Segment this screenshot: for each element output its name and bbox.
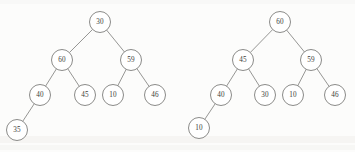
tree-node: 45 bbox=[233, 50, 254, 71]
node-label: 59 bbox=[127, 56, 135, 64]
tree-edge bbox=[249, 69, 260, 86]
tree-node: 35 bbox=[7, 120, 28, 141]
node-label: 30 bbox=[261, 91, 269, 99]
tree-node: 40 bbox=[30, 85, 51, 106]
tree-node: 60 bbox=[270, 12, 291, 33]
node-label: 10 bbox=[195, 124, 203, 132]
node-label: 45 bbox=[239, 56, 247, 64]
tree-node: 30 bbox=[255, 85, 276, 106]
node-label: 45 bbox=[81, 91, 89, 99]
node-label: 40 bbox=[36, 91, 44, 99]
node-label: 35 bbox=[13, 126, 21, 134]
tree-node: 10 bbox=[283, 85, 304, 106]
node-label: 30 bbox=[96, 18, 104, 26]
tree-edge bbox=[107, 30, 125, 52]
tree-edge bbox=[205, 104, 215, 120]
node-label: 46 bbox=[331, 91, 339, 99]
tree-node: 59 bbox=[301, 50, 322, 71]
tree-edge bbox=[137, 69, 149, 87]
tree-canvas: 30605940451046356045594030104610 bbox=[0, 0, 355, 152]
tree-edge bbox=[118, 69, 126, 85]
tree-edges bbox=[23, 29, 329, 121]
tree-node: 45 bbox=[75, 85, 96, 106]
tree-edge bbox=[69, 29, 92, 52]
tree-node: 30 bbox=[90, 12, 111, 33]
node-label: 59 bbox=[307, 56, 315, 64]
tree-nodes: 30605940451046356045594030104610 bbox=[7, 12, 346, 141]
tree-node: 59 bbox=[121, 50, 142, 71]
tree-edge bbox=[46, 69, 57, 86]
node-label: 60 bbox=[58, 56, 66, 64]
tree-node: 10 bbox=[103, 85, 124, 106]
tree-edge bbox=[227, 69, 238, 86]
tree-node: 60 bbox=[52, 50, 73, 71]
tree-edge bbox=[250, 30, 272, 53]
binary-tree-figure: 30605940451046356045594030104610 bbox=[0, 0, 355, 152]
tree-node: 46 bbox=[145, 85, 166, 106]
tree-node: 10 bbox=[189, 118, 210, 139]
tree-edge bbox=[23, 104, 34, 121]
node-label: 40 bbox=[217, 91, 225, 99]
tree-edge bbox=[317, 69, 329, 87]
tree-edge bbox=[287, 30, 305, 52]
node-label: 10 bbox=[289, 91, 297, 99]
node-label: 60 bbox=[276, 18, 284, 26]
tree-edge bbox=[298, 69, 306, 85]
tree-edge bbox=[68, 69, 79, 86]
tree-node: 40 bbox=[211, 85, 232, 106]
node-label: 46 bbox=[151, 91, 159, 99]
node-label: 10 bbox=[109, 91, 117, 99]
tree-node: 46 bbox=[325, 85, 346, 106]
